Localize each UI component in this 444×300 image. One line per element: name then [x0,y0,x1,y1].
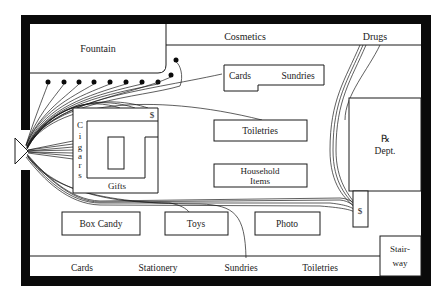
cosmetics-label: Cosmetics [224,31,266,42]
cards-island-label: Cards [229,71,251,81]
cashier-top-icon: $ [150,110,155,120]
toiletries-island-label: Toiletries [242,126,278,136]
cigars-letter: r [79,160,82,170]
household-label-line1: Household [241,166,280,176]
bottom-wall [21,276,431,286]
fountain-stools [46,58,179,85]
stool-icon [62,80,67,85]
rx-dept-label: Dept. [375,146,396,156]
household-label-line2: Items [250,176,270,186]
cigars-gifts-counter: $ C i g a r s Gifts [73,108,158,193]
bottom-toiletries-label: Toiletries [302,263,338,273]
sundries-island-label: Sundries [281,71,315,81]
left-wall-lower [21,170,30,286]
left-wall-upper [21,15,30,130]
stool-icon [108,80,113,85]
bottom-sundries-label: Sundries [224,263,258,273]
store-floor-plan: Fountain Cosmetics Drugs [0,0,444,300]
stairway-label-line1: Stair- [390,244,410,254]
toys-label: Toys [187,219,206,229]
cigars-letter: s [78,170,82,180]
bottom-cards-label: Cards [71,263,93,273]
cigars-letter: C [77,120,83,130]
stool-icon [169,73,174,78]
box-candy-label: Box Candy [79,219,122,229]
gifts-display-case [108,137,124,169]
stairway-label-line2: way [393,258,408,268]
stool-icon [77,80,82,85]
stairway [380,236,421,276]
top-wall [21,15,431,24]
stool-icon [46,80,51,85]
rx-symbol-icon: ℞ [381,133,390,144]
stool-icon [174,58,179,63]
rx-dept [349,98,421,191]
bottom-stationery-label: Stationery [138,263,177,273]
stool-icon [124,80,129,85]
right-wall [421,15,431,286]
drugs-label: Drugs [363,31,388,42]
stool-icon [92,80,97,85]
gifts-label: Gifts [108,181,126,191]
photo-label: Photo [276,219,298,229]
entrance-arrow-icon [15,138,28,164]
stool-icon [140,80,145,85]
cashier-right-icon: $ [358,206,363,216]
fountain-label: Fountain [80,43,116,54]
